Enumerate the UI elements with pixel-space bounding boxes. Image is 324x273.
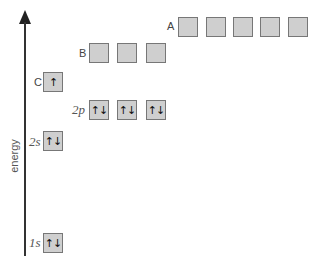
level-label-2s: 2s — [29, 134, 41, 150]
orbital-box-A — [233, 17, 253, 37]
orbital-box-B — [146, 43, 166, 63]
orbital-box-A — [178, 17, 198, 37]
orbital-box-A — [288, 17, 308, 37]
orbital-box-B — [89, 43, 109, 63]
orbital-box-B — [117, 43, 137, 63]
energy-axis — [24, 22, 26, 256]
level-label-C: C — [34, 76, 42, 88]
orbital-box-2p: ↑↓ — [146, 100, 166, 120]
orbital-box-1s: ↑↓ — [43, 233, 63, 253]
level-label-A: A — [167, 20, 174, 32]
orbital-box-2p: ↑↓ — [117, 100, 137, 120]
orbital-box-2s: ↑↓ — [43, 131, 63, 151]
level-label-2p: 2p — [72, 102, 85, 118]
orbital-box-A — [260, 17, 280, 37]
level-label-B: B — [79, 47, 86, 59]
level-label-1s: 1s — [29, 235, 41, 251]
orbital-box-A — [206, 17, 226, 37]
orbital-box-C: ↑ — [43, 72, 63, 92]
orbital-box-2p: ↑↓ — [89, 100, 109, 120]
energy-axis-label: energy — [8, 136, 20, 176]
